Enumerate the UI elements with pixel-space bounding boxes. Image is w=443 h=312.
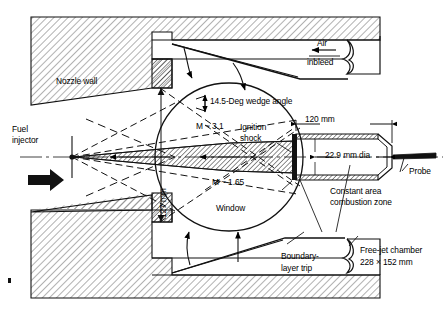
lower-nozzle-wall-taper xyxy=(31,195,152,212)
label-ignition-shock-line2: shock xyxy=(240,133,261,143)
label-mach-downstream: M ~ 1.65 xyxy=(212,177,244,187)
label-boundary-trip-line2: layer trip xyxy=(281,263,312,273)
label-fuel-injector-line1: Fuel xyxy=(12,124,28,134)
label-mach-upstream: M ~ 3.1 xyxy=(196,121,223,131)
upper-nozzle-lip xyxy=(152,59,172,88)
supersonic-jet-core xyxy=(74,141,296,173)
label-wedge-angle: 14.5-Deg wedge angle xyxy=(210,96,292,106)
label-free-jet-line2: 228 × 152 mm xyxy=(360,257,413,267)
wedge-angle-marker xyxy=(196,95,205,112)
label-air-inbleed-line1: Air xyxy=(317,38,327,48)
registration-mark xyxy=(8,278,11,283)
air-inbleed-arrow xyxy=(309,50,340,56)
label-boundary-trip-line1: Boundary- xyxy=(281,251,319,261)
boundary-layer-trip-lower xyxy=(172,238,345,273)
label-dim-229mm: 22.9 mm dia xyxy=(325,150,370,160)
label-dim-127mm: 127 mm xyxy=(158,188,168,218)
label-fuel-injector-line2: injector xyxy=(12,135,38,145)
label-ignition-shock-line1: Ignition xyxy=(240,122,266,132)
label-dim-120mm: 120 mm xyxy=(305,114,335,124)
figure-root: Nozzle wall Fuel injector Air inbleed 14… xyxy=(0,0,443,312)
label-free-jet-line1: Free-jet chamber xyxy=(360,245,422,255)
label-constant-area-line2: combustion zone xyxy=(330,197,392,207)
flow-arrow-inlet xyxy=(28,169,64,191)
label-nozzle-wall: Nozzle wall xyxy=(56,76,97,86)
label-air-inbleed-line2: inbleed xyxy=(307,57,333,67)
label-probe: Probe xyxy=(409,166,431,176)
label-window: Window xyxy=(216,203,245,213)
label-constant-area-line1: Constant area xyxy=(330,186,381,196)
